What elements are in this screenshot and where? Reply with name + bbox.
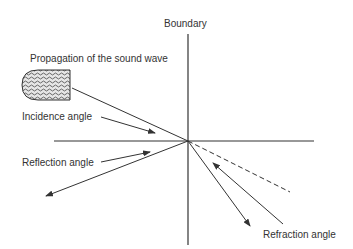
refraction-label: Refraction angle [263,229,336,241]
incidence-pointer-arrow [101,117,155,133]
sound-source-icon [22,70,70,100]
propagation-label: Propagation of the sound wave [30,53,168,65]
reflection-pointer-arrow [101,152,150,162]
refracted-ray [188,141,250,226]
dashed-continuation-ray [188,141,290,192]
reflection-label: Reflection angle [22,157,94,169]
incidence-label: Incidence angle [22,111,92,123]
refraction-diagram [0,0,353,249]
boundary-label: Boundary [164,18,207,30]
refraction-pointer-arrow [213,163,283,224]
